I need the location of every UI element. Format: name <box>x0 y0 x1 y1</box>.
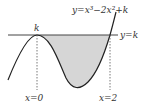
max-label: k <box>34 23 39 33</box>
x0-label: x=0 <box>25 93 44 103</box>
shaded-area <box>37 35 110 88</box>
curve-label: y=x³−2x²+k <box>71 5 128 15</box>
graph: y=x³−2x²+k y=k k x=0 x=2 <box>0 0 143 112</box>
line-label: y=k <box>119 30 138 40</box>
x2-label: x=2 <box>99 93 118 103</box>
